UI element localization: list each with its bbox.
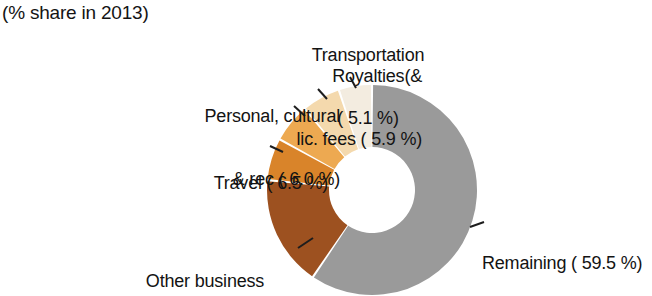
slice-label-travel-text: Travel ( 6.5 %)	[100, 173, 328, 194]
slice-label-remaining: Remaining ( 59.5 %)	[482, 211, 652, 296]
slice-label-travel: Travel ( 6.5 %)	[100, 131, 328, 236]
slice-label-personal-name: Personal, cultural	[100, 106, 340, 127]
slice-label-other-business: Other business ( 17.0 %)	[90, 229, 320, 296]
slice-label-remaining-text: Remaining ( 59.5 %)	[482, 253, 652, 274]
slice-label-otherbusiness-name: Other business	[90, 271, 320, 292]
chart-container: (% share in 2013) Transportation ( 5.1 %…	[0, 0, 652, 296]
